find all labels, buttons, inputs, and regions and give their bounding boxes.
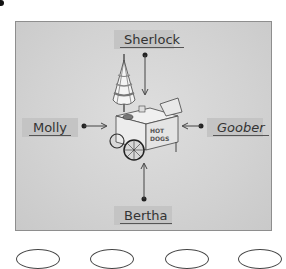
arrow-top — [142, 53, 148, 96]
label-goober-text: Goober — [213, 120, 269, 136]
svg-text:DOGS: DOGS — [150, 135, 169, 142]
label-bertha-text: Bertha — [120, 208, 172, 224]
label-sherlock: Sherlock — [114, 30, 174, 49]
umbrella-icon — [113, 54, 135, 112]
hot-dog-cart-icon: HOT DOGS — [110, 98, 182, 160]
label-sherlock-text: Sherlock — [120, 32, 184, 48]
answer-bubble-1[interactable] — [16, 249, 60, 269]
answer-bubble-2[interactable] — [90, 249, 134, 269]
label-bertha: Bertha — [114, 206, 172, 225]
label-molly: Molly — [22, 118, 78, 137]
cart-sign-text: HOT — [150, 127, 165, 134]
wheel-icon — [124, 140, 144, 160]
arrow-left — [82, 123, 108, 129]
label-molly-text: Molly — [29, 120, 71, 136]
answer-bubble-3[interactable] — [165, 249, 209, 269]
arrow-bottom — [141, 163, 147, 202]
answer-bubble-4[interactable] — [238, 249, 282, 269]
arrow-right — [182, 123, 204, 129]
label-goober: Goober — [207, 118, 263, 137]
